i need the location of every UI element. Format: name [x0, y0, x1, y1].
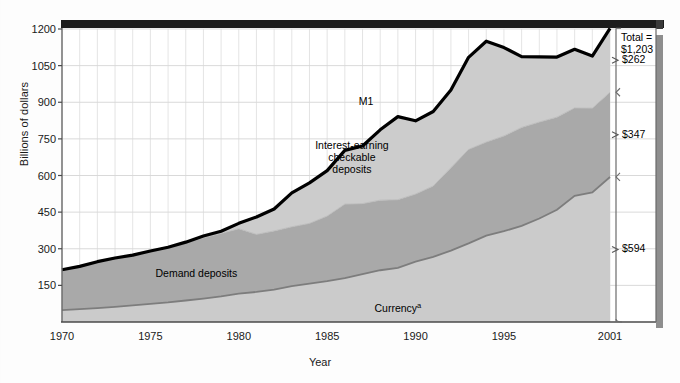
- x-tick-1970: 1970: [50, 330, 74, 342]
- series-label-demand-deposits: Demand deposits: [155, 267, 237, 279]
- bracket-label-demand-deposits: $347: [622, 128, 645, 140]
- currency-footnote-marker: a: [417, 301, 421, 310]
- series-label-interest-earning: Interest-earning checkable deposits: [315, 139, 389, 175]
- x-tick-1990: 1990: [403, 330, 427, 342]
- y-tick-1050: 1050: [10, 60, 56, 72]
- total-callout-line-1: Total =: [621, 31, 652, 43]
- y-tick-600: 600: [10, 170, 56, 182]
- ie-line-1: Interest-earning: [315, 139, 389, 151]
- x-tick-1980: 1980: [227, 330, 251, 342]
- total-callout: Total = $1,203: [621, 31, 653, 55]
- bracket-label-currency: $594: [622, 242, 645, 254]
- y-tick-300: 300: [10, 243, 56, 255]
- series-label-currency: Currencya: [374, 300, 421, 315]
- series-label-m1: M1: [359, 95, 374, 107]
- panel-shadow-right: [656, 35, 663, 328]
- dd-text: Demand deposits: [155, 267, 237, 279]
- panel-top-rule-corner: [656, 20, 663, 29]
- bracket-label-interest-earning: $262: [622, 53, 645, 65]
- y-tick-150: 150: [10, 279, 56, 291]
- x-axis-title: Year: [0, 356, 640, 368]
- y-axis-tick-labels: 12001050900750600450300150: [8, 0, 56, 383]
- panel-top-rule: [61, 20, 664, 28]
- x-tick-1985: 1985: [315, 330, 339, 342]
- y-tick-1200: 1200: [10, 23, 56, 35]
- series-label-m1-text: M1: [359, 95, 374, 107]
- x-tick-1975: 1975: [138, 330, 162, 342]
- ie-line-2: checkable: [328, 151, 375, 163]
- chart-canvas: [0, 0, 680, 383]
- y-tick-900: 900: [10, 96, 56, 108]
- figure-area-chart-m1-components: Billions of dollars Year 120010509007506…: [0, 0, 680, 383]
- y-tick-450: 450: [10, 206, 56, 218]
- x-tick-1995: 1995: [492, 330, 516, 342]
- currency-text: Currency: [374, 302, 417, 314]
- y-tick-750: 750: [10, 133, 56, 145]
- x-tick-2001: 2001: [598, 330, 622, 342]
- ie-line-3: deposits: [332, 163, 371, 175]
